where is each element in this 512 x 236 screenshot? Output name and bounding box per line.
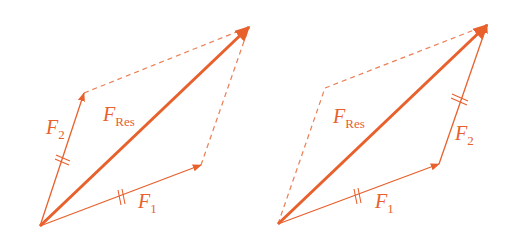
left-force1-equal-tick	[118, 189, 125, 205]
left-force1-arrow	[40, 165, 201, 226]
right-resultant-label: FRes	[332, 105, 365, 131]
right-force2-label: F2	[454, 122, 474, 148]
left-resultant-label: FRes	[102, 103, 135, 129]
left-force2-label: F2	[45, 116, 65, 142]
left-dashed-top	[84, 27, 249, 93]
left-force1-label: F1	[137, 190, 157, 216]
vector-addition-diagram: F2 FRes F1 FRes F2 F1	[0, 0, 512, 236]
left-dashed-right	[201, 27, 249, 165]
right-force1-equal-tick	[354, 188, 361, 204]
right-force1-arrow	[278, 164, 439, 224]
right-triangle-diagram: FRes F2 F1	[278, 25, 487, 224]
right-dashed-top	[325, 25, 487, 88]
right-force1-label: F1	[374, 190, 394, 216]
left-parallelogram-diagram: F2 FRes F1	[40, 27, 249, 226]
